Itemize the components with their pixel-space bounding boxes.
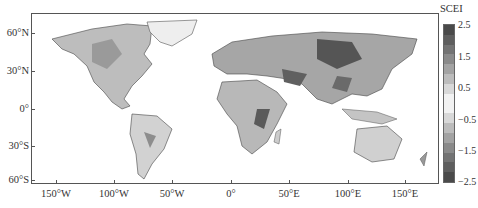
x-tick-label: 0° [226, 189, 235, 200]
y-tick [31, 71, 35, 72]
x-tick [56, 180, 57, 184]
colorbar-segment [444, 162, 454, 172]
x-tick [231, 180, 232, 184]
x-tick [114, 180, 115, 184]
x-tick-label: 100°W [99, 189, 129, 200]
colorbar-segment [444, 113, 454, 123]
colorbar-segment [444, 35, 454, 45]
colorbar-segment [444, 133, 454, 143]
colorbar-segment [444, 25, 454, 35]
x-tick-label: 150°W [41, 189, 71, 200]
x-tick-label: 50°E [278, 189, 299, 200]
australia [354, 126, 402, 162]
map-frame [31, 13, 439, 184]
x-tick-label: 150°E [392, 189, 418, 200]
y-tick [31, 109, 35, 110]
y-tick [31, 180, 35, 181]
x-tick [172, 180, 173, 184]
y-tick [31, 33, 35, 34]
colorbar-segment [444, 74, 454, 84]
y-tick-label: 60°S [8, 175, 29, 186]
greenland [147, 20, 197, 46]
colorbar-segment [444, 123, 454, 133]
colorbar-segment [444, 153, 454, 163]
x-tick [289, 180, 290, 184]
colorbar-title: SCEI [440, 3, 463, 14]
colorbar [443, 24, 455, 183]
y-tick-label: 0° [20, 104, 29, 115]
colorbar-label: 2.5 [458, 20, 471, 30]
colorbar-label: −2.5 [458, 177, 476, 187]
colorbar-segment [444, 84, 454, 94]
colorbar-label: 0.5 [458, 83, 471, 93]
x-tick-label: 50°W [160, 189, 185, 200]
colorbar-label: 1.5 [458, 52, 471, 62]
colorbar-segment [444, 143, 454, 153]
colorbar-label: −0.5 [458, 115, 476, 125]
y-tick-label: 30°N [7, 66, 29, 77]
south-america [130, 114, 172, 179]
colorbar-label: −1.5 [458, 146, 476, 156]
colorbar-segment [444, 45, 454, 55]
x-tick [348, 180, 349, 184]
colorbar-segment [444, 94, 454, 104]
colorbar-segment [444, 172, 454, 182]
world-map [32, 14, 439, 184]
colorbar-segment [444, 54, 454, 64]
colorbar-segment [444, 104, 454, 114]
y-tick [31, 146, 35, 147]
colorbar-segment [444, 64, 454, 74]
x-tick-label: 100°E [335, 189, 361, 200]
x-tick [405, 180, 406, 184]
y-tick-label: 30°S [8, 141, 29, 152]
y-tick-label: 60°N [7, 28, 29, 39]
